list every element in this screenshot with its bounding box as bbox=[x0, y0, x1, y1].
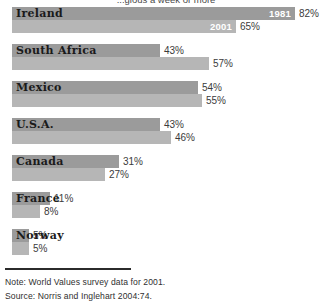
country-group: South Africa43%57% bbox=[0, 44, 332, 70]
bar-row: 57% bbox=[0, 57, 332, 70]
value-label-1981: 54% bbox=[202, 81, 222, 94]
bar-row: South Africa43% bbox=[0, 44, 332, 57]
country-group: Canada31%27% bbox=[0, 155, 332, 181]
value-label-1981: 82% bbox=[299, 7, 319, 20]
chart-title-clipped: ...gious a week or more bbox=[0, 0, 332, 7]
series-label-1981: 1981 bbox=[269, 7, 291, 20]
bar-row: 5% bbox=[0, 242, 332, 255]
country-group: France11%8% bbox=[0, 192, 332, 218]
chart-title: ...gious a week or more bbox=[0, 0, 332, 5]
series-label-2001: 2001 bbox=[210, 20, 232, 33]
country-label: Norway bbox=[16, 229, 64, 242]
country-label: France bbox=[16, 192, 60, 205]
footer-note: Note: World Values survey data for 2001. bbox=[5, 277, 165, 287]
value-label-1981: 43% bbox=[164, 118, 184, 131]
bar-row: Canada31% bbox=[0, 155, 332, 168]
bar-row: 46% bbox=[0, 131, 332, 144]
bar-2001 bbox=[12, 94, 202, 107]
bar-row: 55% bbox=[0, 94, 332, 107]
bar-2001 bbox=[12, 242, 29, 255]
value-label-2001: 46% bbox=[175, 131, 195, 144]
country-group: 1981Ireland82%200165% bbox=[0, 7, 332, 33]
country-group: Norway5%5% bbox=[0, 229, 332, 255]
value-label-2001: 8% bbox=[44, 205, 58, 218]
value-label-2001: 57% bbox=[213, 57, 233, 70]
bar-row: Mexico54% bbox=[0, 81, 332, 94]
bar-row: U.S.A.43% bbox=[0, 118, 332, 131]
value-label-2001: 65% bbox=[240, 20, 260, 33]
bar-row: France11% bbox=[0, 192, 332, 205]
plot-area: 1981Ireland82%200165%South Africa43%57%M… bbox=[0, 7, 332, 255]
value-label-2001: 5% bbox=[33, 242, 47, 255]
bar-2001: 2001 bbox=[12, 20, 236, 33]
country-label: Mexico bbox=[16, 81, 62, 94]
country-group: U.S.A.43%46% bbox=[0, 118, 332, 144]
bar-chart: ...gious a week or more 1981Ireland82%20… bbox=[0, 0, 332, 304]
country-label: Canada bbox=[16, 155, 64, 168]
bar-2001 bbox=[12, 131, 171, 144]
bar-2001 bbox=[12, 205, 40, 218]
bar-row: 1981Ireland82% bbox=[0, 7, 332, 20]
value-label-1981: 43% bbox=[164, 44, 184, 57]
bar-row: Norway5% bbox=[0, 229, 332, 242]
country-label: South Africa bbox=[16, 44, 97, 57]
footer-source: Source: Norris and Inglehart 2004:74. bbox=[5, 291, 152, 301]
footer-divider bbox=[5, 268, 131, 270]
value-label-1981: 31% bbox=[123, 155, 143, 168]
country-group: Mexico54%55% bbox=[0, 81, 332, 107]
bar-row: 200165% bbox=[0, 20, 332, 33]
value-label-2001: 27% bbox=[109, 168, 129, 181]
bar-row: 8% bbox=[0, 205, 332, 218]
value-label-2001: 55% bbox=[206, 94, 226, 107]
bar-2001 bbox=[12, 57, 209, 70]
country-label: U.S.A. bbox=[16, 118, 54, 131]
bar-row: 27% bbox=[0, 168, 332, 181]
country-label: Ireland bbox=[16, 7, 63, 20]
bar-2001 bbox=[12, 168, 105, 181]
